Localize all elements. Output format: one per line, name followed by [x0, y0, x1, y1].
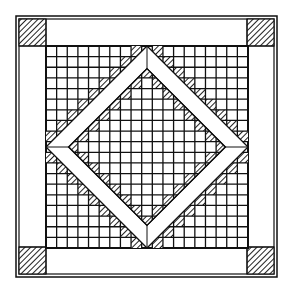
corner-square-top-right — [247, 19, 274, 46]
quilt-block-drawing — [0, 0, 294, 292]
corner-square-top-left — [19, 19, 46, 46]
corner-square-bottom-right — [247, 247, 274, 274]
corner-square-bottom-left — [19, 247, 46, 274]
